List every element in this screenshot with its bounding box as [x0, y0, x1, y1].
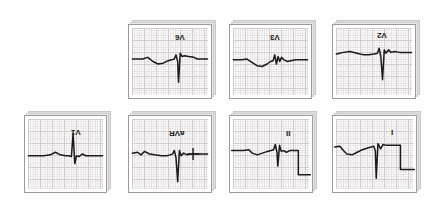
lead-panel-v3: V3: [229, 24, 312, 99]
ecg-waveform-path: [232, 145, 311, 175]
ecg-waveform-path: [233, 55, 307, 67]
lead-panel-v1: V1: [24, 115, 107, 193]
lead-label-i: I: [391, 128, 393, 136]
ecg-trace-v6: [129, 25, 211, 98]
panel-face: V1: [24, 115, 107, 193]
panel-face: V2: [332, 24, 416, 99]
lead-panel-v6: V6: [128, 24, 212, 99]
ecg-trace-i: [333, 116, 416, 192]
panel-face: aVR: [128, 115, 212, 193]
panel-face: I: [332, 115, 417, 193]
ecg-waveform-path: [132, 151, 207, 182]
ecg-trace-v1: [25, 116, 106, 192]
lead-panel-v2: V2: [332, 24, 416, 99]
ecg-waveform-path: [335, 144, 415, 179]
lead-label-avr: aVR: [169, 129, 185, 137]
ecg-waveform-path: [132, 53, 207, 82]
ecg-figure: V6V3V2V1aVRIII: [0, 0, 429, 208]
ecg-trace-avr: [129, 116, 211, 192]
lead-label-v6: V6: [175, 33, 185, 41]
ecg-waveform-path: [336, 48, 411, 80]
lead-label-ii: II: [286, 129, 290, 137]
ecg-trace-ii: [230, 116, 312, 192]
calibration-mark: [187, 148, 199, 160]
ecg-waveform-path: [28, 133, 102, 163]
panel-face: II: [229, 115, 313, 193]
panel-face: V6: [128, 24, 212, 99]
lead-panel-i: I: [332, 115, 417, 193]
lead-label-v3: V3: [270, 33, 280, 41]
lead-label-v1: V1: [71, 128, 81, 136]
ecg-trace-v2: [333, 25, 415, 98]
lead-label-v2: V2: [377, 31, 387, 39]
lead-panel-ii: II: [229, 115, 313, 193]
panel-face: V3: [229, 24, 312, 99]
lead-panel-avr: aVR: [128, 115, 212, 193]
